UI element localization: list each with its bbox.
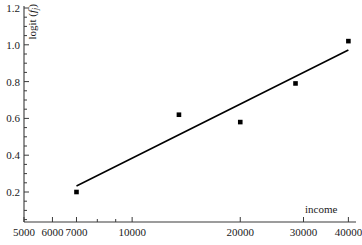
y-tick-label: 0.2 <box>0 186 20 198</box>
y-tick-label: 0.6 <box>0 112 20 124</box>
data-point <box>238 120 243 125</box>
x-tick-label: 40000 <box>335 226 362 238</box>
x-tick-label: 5000 <box>13 226 35 238</box>
trend-line <box>76 50 348 186</box>
y-axis-title: logit (fj) <box>26 4 40 40</box>
y-axis-title-main: logit ( <box>26 13 38 40</box>
x-axis-title: income <box>305 203 337 215</box>
y-axis-title-close: ) <box>26 4 38 8</box>
y-tick-label: 1.0 <box>0 39 20 51</box>
x-tick-label: 30000 <box>290 226 318 238</box>
y-axis-title-italic: f <box>26 10 38 13</box>
x-tick-label: 7000 <box>65 226 87 238</box>
y-axis-ticks <box>24 8 29 220</box>
data-point <box>74 190 79 195</box>
y-axis-title-subscript: j <box>31 8 40 10</box>
data-point-markers <box>74 39 350 194</box>
data-point <box>293 81 298 86</box>
data-point <box>177 112 182 117</box>
x-tick-label: 6000 <box>41 226 63 238</box>
x-axis-ticks <box>24 217 348 222</box>
y-tick-label: 1.2 <box>0 2 20 14</box>
y-tick-label: 0.8 <box>0 76 20 88</box>
x-tick-label: 20000 <box>227 226 255 238</box>
y-tick-label: 0.4 <box>0 149 20 161</box>
data-point <box>346 39 351 44</box>
axes-group <box>24 6 356 222</box>
x-tick-label: 10000 <box>118 226 146 238</box>
fitted-trend-line <box>76 50 348 186</box>
